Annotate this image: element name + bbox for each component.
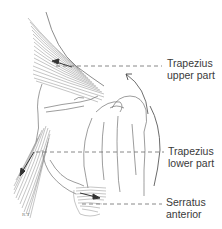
label-trapezius-upper-line2: upper part <box>167 69 215 81</box>
label-trapezius-lower-line1: Trapezius <box>168 145 214 157</box>
trapezius-upper-fibers <box>28 18 104 102</box>
trapezius-lower-arrow <box>20 152 34 176</box>
label-serratus-anterior: Serratus anterior <box>166 196 206 220</box>
rotation-arrow <box>126 74 148 114</box>
leader-lines <box>36 66 164 204</box>
trapezius-lower-fibers <box>14 126 50 218</box>
label-serratus-anterior-line1: Serratus <box>166 196 206 208</box>
shoulder-anatomy-illustration: R.T <box>0 0 222 229</box>
label-trapezius-lower: Trapezius lower part <box>168 145 214 169</box>
artist-signature: R.T <box>22 212 30 217</box>
serratus-anterior-fibers <box>74 187 106 216</box>
label-trapezius-upper-line1: Trapezius <box>167 57 215 69</box>
label-serratus-anterior-line2: anterior <box>166 208 206 220</box>
label-trapezius-upper: Trapezius upper part <box>167 57 215 81</box>
humerus-outline <box>84 96 147 196</box>
arm-contour <box>150 106 160 186</box>
label-trapezius-lower-line2: lower part <box>168 157 214 169</box>
scapula-outline <box>36 84 124 194</box>
serratus-arrow <box>80 193 100 199</box>
